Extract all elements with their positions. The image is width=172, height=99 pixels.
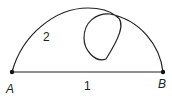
path-2-curve [12,8,163,72]
point-b-label: B [158,77,166,91]
diagram-canvas: A B 1 2 [0,0,172,99]
path-1-label: 1 [84,79,91,93]
path-2-label: 2 [43,30,50,44]
point-b-dot [161,70,165,74]
point-a-dot [10,70,14,74]
point-a-label: A [5,82,14,96]
